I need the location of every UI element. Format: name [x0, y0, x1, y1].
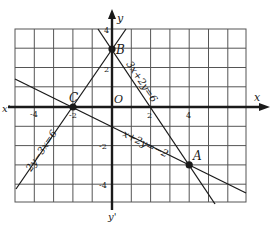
- y-tick-neg4: -4: [99, 181, 107, 190]
- point-A-label: A: [192, 149, 202, 163]
- origin-label: O: [114, 93, 123, 106]
- y-axis-label: y: [116, 12, 124, 25]
- y-tick-2: 2: [104, 65, 109, 74]
- y-tick-neg2: -2: [99, 142, 107, 151]
- label-3x-2y-6: 3x+2y=6: [124, 59, 160, 105]
- coordinate-graph: x x' y y' O -4 -2 2 4 4 2 -2 -4 A B C 3x…: [0, 0, 276, 226]
- x-axis-label: x: [254, 91, 261, 104]
- x-axis: [8, 103, 270, 111]
- point-A: [186, 161, 193, 168]
- x-tick-4: 4: [186, 111, 191, 120]
- x-tick-neg2: -2: [69, 111, 77, 120]
- point-C-label: C: [69, 91, 78, 105]
- label-x-2y-neg2: x+2y=−2: [121, 128, 170, 159]
- x-tick-neg4: -4: [30, 110, 38, 119]
- x-neg-axis-label: x': [2, 103, 10, 114]
- point-B: [108, 45, 115, 52]
- y-neg-axis-label: y': [107, 211, 116, 222]
- x-tick-2: 2: [147, 111, 152, 120]
- y-axis: [108, 9, 116, 210]
- y-tick-4: 4: [104, 26, 109, 35]
- point-B-label: B: [115, 43, 125, 57]
